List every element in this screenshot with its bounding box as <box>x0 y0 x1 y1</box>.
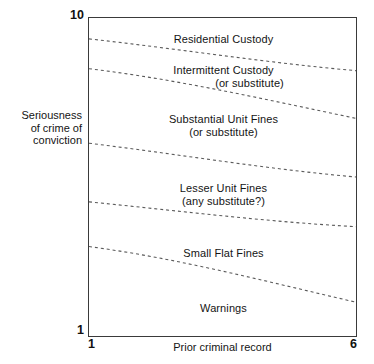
y-axis-tick-min: 1 <box>60 324 84 337</box>
plot-area: Residential CustodyIntermittent Custody(… <box>88 17 357 337</box>
x-axis-title: Prior criminal record <box>88 341 357 354</box>
band-label-intermittent-custody: Intermittent Custody(or substitute) <box>89 64 358 90</box>
y-axis-title-line-1: Seriousness <box>2 109 82 122</box>
band-label-line-1: Small Flat Fines <box>183 247 263 259</box>
boundary-curve-boundary-3 <box>89 143 356 177</box>
band-label-substantial-unit-fines: Substantial Unit Fines(or substitute) <box>89 113 358 139</box>
band-label-line-2: (or substitute) <box>89 126 358 139</box>
band-label-lesser-unit-fines: Lesser Unit Fines(any substitute?) <box>89 182 358 208</box>
band-label-warnings: Warnings <box>89 302 358 315</box>
band-label-line-1: Substantial Unit Fines <box>169 113 278 125</box>
sentencing-grid-figure: 10 1 1 6 Seriousness of crime of convict… <box>0 0 374 364</box>
y-axis-tick-max: 10 <box>60 9 84 22</box>
band-label-line-2: (any substitute?) <box>89 195 358 208</box>
band-label-small-flat-fines: Small Flat Fines <box>89 247 358 260</box>
band-label-residential-custody: Residential Custody <box>89 33 358 46</box>
band-label-line-1: Residential Custody <box>174 33 274 45</box>
band-label-line-1: Warnings <box>200 302 247 314</box>
y-axis-title: Seriousness of crime of conviction <box>2 109 82 147</box>
y-axis-title-line-2: of crime of <box>2 122 82 135</box>
band-label-line-1: Lesser Unit Fines <box>180 182 267 194</box>
band-label-line-1: Intermittent Custody <box>173 64 273 76</box>
y-axis-title-line-3: conviction <box>2 134 82 147</box>
band-label-line-2: (or substitute) <box>89 77 358 90</box>
